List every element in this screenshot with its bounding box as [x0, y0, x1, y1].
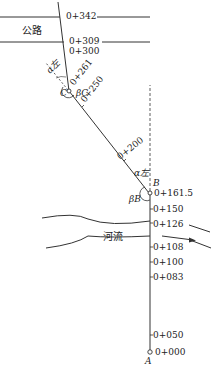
station-label: 0+309: [69, 36, 100, 46]
station-label: 0+108: [153, 242, 184, 252]
station-label: 0+083: [153, 272, 184, 282]
station-label: 0+150: [153, 204, 184, 214]
station-label: 0+200: [115, 135, 145, 162]
station-label: 0+050: [153, 330, 184, 340]
station-label: 0+300: [69, 46, 100, 56]
road-label: 公路: [22, 24, 42, 36]
beta-c-label: βC: [75, 88, 88, 98]
point-a-label: A: [144, 356, 152, 366]
river-bank-upper: [42, 215, 150, 223]
point-c-marker: [67, 89, 71, 93]
point-c-label: C: [60, 88, 67, 98]
river-label: 河流: [103, 230, 123, 242]
point-b-marker: [148, 191, 152, 195]
station-label: 0+161.5: [154, 188, 193, 198]
point-a-marker: [148, 350, 152, 354]
station-label: 0+126: [153, 219, 184, 229]
alpha-left-c-label: α左: [44, 57, 62, 75]
river-bank-lower: [46, 236, 150, 248]
point-b-label: B: [152, 178, 160, 188]
river-bank-upper-right: [189, 225, 210, 232]
tick-0-200: [124, 159, 126, 161]
station-label: 0+100: [153, 257, 184, 267]
route-diagram: 公路 河流 0+342 0+309 0+300 0+261 0+250 0+20…: [0, 0, 219, 368]
alpha-left-b-label: α左: [134, 168, 150, 178]
tick-0-250: [82, 105, 84, 107]
beta-b-label: βB: [128, 194, 141, 204]
station-label: 0+000: [155, 347, 186, 357]
river-flow-arrow-shaft: [162, 236, 193, 240]
station-label: 0+342: [66, 11, 96, 21]
